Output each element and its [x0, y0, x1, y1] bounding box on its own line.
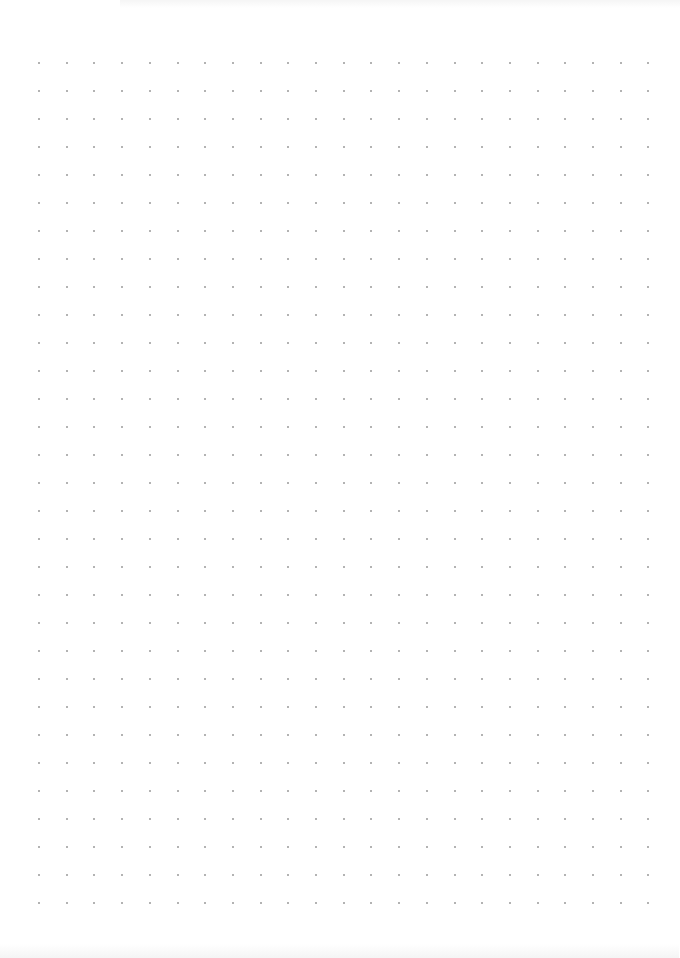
grid-dot — [592, 286, 594, 288]
grid-dot — [315, 398, 317, 400]
grid-dot — [426, 398, 428, 400]
grid-dot — [647, 62, 649, 64]
grid-dot — [287, 846, 289, 848]
grid-dot — [287, 426, 289, 428]
grid-dot — [537, 510, 539, 512]
grid-dot — [564, 650, 566, 652]
grid-dot — [370, 370, 372, 372]
grid-dot — [287, 538, 289, 540]
grid-dot — [287, 146, 289, 148]
grid-dot — [260, 650, 262, 652]
grid-dot — [177, 510, 179, 512]
grid-dot — [370, 146, 372, 148]
grid-dot — [93, 678, 95, 680]
grid-dot — [343, 286, 345, 288]
grid-dot — [426, 678, 428, 680]
grid-dot — [232, 174, 234, 176]
grid-dot — [509, 370, 511, 372]
grid-dot — [315, 790, 317, 792]
grid-dot — [537, 818, 539, 820]
grid-dot — [343, 118, 345, 120]
grid-dot — [509, 62, 511, 64]
grid-dot — [315, 370, 317, 372]
grid-dot — [620, 790, 622, 792]
grid-dot — [592, 174, 594, 176]
grid-dot — [537, 622, 539, 624]
grid-dot — [481, 258, 483, 260]
grid-dot — [260, 622, 262, 624]
grid-dot — [592, 62, 594, 64]
grid-dot — [481, 538, 483, 540]
grid-dot — [426, 734, 428, 736]
grid-dot — [93, 538, 95, 540]
grid-dot — [398, 230, 400, 232]
grid-dot — [66, 90, 68, 92]
grid-dot — [564, 706, 566, 708]
grid-dot — [149, 370, 151, 372]
grid-dot — [620, 398, 622, 400]
grid-dot — [93, 174, 95, 176]
grid-dot — [564, 174, 566, 176]
grid-dot — [398, 90, 400, 92]
grid-dot — [149, 202, 151, 204]
grid-dot — [204, 230, 206, 232]
grid-dot — [620, 230, 622, 232]
grid-dot — [287, 790, 289, 792]
grid-dot — [66, 734, 68, 736]
grid-dot — [537, 174, 539, 176]
grid-dot — [204, 62, 206, 64]
grid-dot — [232, 482, 234, 484]
grid-dot — [66, 902, 68, 904]
grid-dot — [149, 62, 151, 64]
grid-dot — [537, 846, 539, 848]
grid-dot — [93, 342, 95, 344]
grid-dot — [121, 230, 123, 232]
grid-dot — [620, 902, 622, 904]
grid-dot — [260, 454, 262, 456]
grid-dot — [287, 594, 289, 596]
grid-dot — [66, 566, 68, 568]
grid-dot — [204, 510, 206, 512]
grid-dot — [93, 398, 95, 400]
grid-dot — [564, 370, 566, 372]
grid-dot — [592, 426, 594, 428]
grid-dot — [232, 286, 234, 288]
grid-dot — [647, 482, 649, 484]
grid-dot — [177, 482, 179, 484]
grid-dot — [149, 706, 151, 708]
grid-dot — [149, 90, 151, 92]
grid-dot — [260, 426, 262, 428]
grid-dot — [592, 314, 594, 316]
grid-dot — [647, 90, 649, 92]
grid-dot — [343, 230, 345, 232]
grid-dot — [260, 566, 262, 568]
grid-dot — [481, 146, 483, 148]
grid-dot — [121, 202, 123, 204]
grid-dot — [647, 118, 649, 120]
grid-dot — [315, 146, 317, 148]
grid-dot — [260, 538, 262, 540]
grid-dot — [426, 762, 428, 764]
grid-dot — [343, 370, 345, 372]
grid-dot — [398, 818, 400, 820]
grid-dot — [509, 174, 511, 176]
grid-dot — [260, 118, 262, 120]
grid-dot — [454, 650, 456, 652]
grid-dot — [260, 706, 262, 708]
grid-dot — [370, 118, 372, 120]
grid-dot — [149, 510, 151, 512]
grid-dot — [647, 174, 649, 176]
grid-dot — [315, 286, 317, 288]
grid-dot — [620, 650, 622, 652]
grid-dot — [620, 258, 622, 260]
grid-dot — [370, 314, 372, 316]
grid-dot — [66, 342, 68, 344]
grid-dot — [232, 314, 234, 316]
grid-dot — [592, 146, 594, 148]
grid-dot — [121, 426, 123, 428]
grid-dot — [592, 790, 594, 792]
grid-dot — [398, 258, 400, 260]
grid-dot — [315, 174, 317, 176]
grid-dot — [343, 62, 345, 64]
grid-dot — [454, 342, 456, 344]
